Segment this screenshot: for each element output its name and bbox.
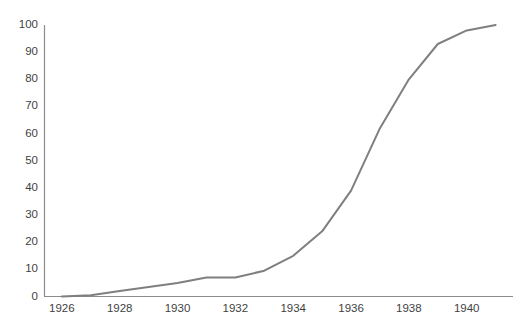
x-tick-label: 1936 <box>338 303 364 315</box>
x-tick-label: 1926 <box>49 303 75 315</box>
x-tick-label: 1940 <box>454 303 480 315</box>
chart-container: chart title 0102030405060708090100 19261… <box>0 0 519 333</box>
x-axis-tick-labels: 19261928193019321934193619381940 <box>0 0 519 333</box>
x-tick-label: 1938 <box>396 303 422 315</box>
x-tick-label: 1930 <box>165 303 191 315</box>
x-tick-label: 1934 <box>280 303 306 315</box>
x-tick-label: 1932 <box>223 303 249 315</box>
x-tick-label: 1928 <box>107 303 133 315</box>
